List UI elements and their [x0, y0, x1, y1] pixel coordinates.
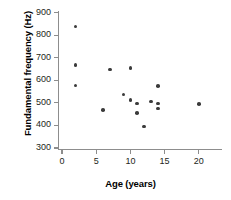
y-tick-label-400: 400	[22, 119, 51, 129]
data-point	[101, 108, 105, 112]
y-tick-label-700: 700	[22, 52, 51, 62]
y-tick-label-wrap-700: 700	[22, 52, 51, 63]
y-tick-700	[54, 57, 58, 58]
x-tick-0	[61, 150, 62, 154]
y-tick-label-wrap-400: 400	[22, 119, 51, 130]
data-point	[197, 102, 201, 106]
y-tick-300	[54, 147, 58, 148]
data-point	[74, 84, 78, 88]
data-point	[122, 93, 126, 97]
x-tick-label-10: 10	[118, 156, 142, 166]
data-point	[156, 107, 160, 111]
y-tick-label-wrap-800: 800	[22, 29, 51, 40]
data-point	[135, 102, 139, 106]
x-tick-10	[130, 150, 131, 154]
y-tick-label-wrap-300: 300	[22, 142, 51, 153]
y-tick-label-900: 900	[22, 7, 51, 17]
y-tick-label-300: 300	[22, 142, 51, 152]
x-tick-label-0: 0	[50, 156, 74, 166]
y-tick-900	[54, 12, 58, 13]
data-point	[129, 66, 133, 70]
y-tick-label-wrap-900: 900	[22, 7, 51, 18]
data-point	[156, 84, 160, 88]
data-point	[108, 68, 112, 72]
x-tick-label-15: 15	[153, 156, 177, 166]
x-tick-label-5: 5	[84, 156, 108, 166]
y-tick-500	[54, 102, 58, 103]
x-tick-15	[164, 150, 165, 154]
y-axis-line	[58, 11, 59, 150]
plot-area: 300400500600700800900 05101520	[0, 0, 231, 200]
x-tick-label-20: 20	[187, 156, 211, 166]
data-point	[74, 25, 78, 29]
x-tick-20	[198, 150, 199, 154]
data-point	[74, 63, 78, 67]
data-point	[129, 98, 133, 102]
y-tick-label-600: 600	[22, 74, 51, 84]
y-tick-label-800: 800	[22, 29, 51, 39]
data-point	[142, 125, 146, 129]
x-tick-5	[96, 150, 97, 154]
data-point	[149, 100, 153, 104]
y-tick-label-wrap-600: 600	[22, 74, 51, 85]
y-tick-800	[54, 35, 58, 36]
y-tick-400	[54, 125, 58, 126]
y-tick-600	[54, 80, 58, 81]
y-tick-label-wrap-500: 500	[22, 97, 51, 108]
y-tick-label-500: 500	[22, 97, 51, 107]
data-point	[135, 111, 139, 115]
data-point	[156, 102, 160, 106]
scatter-plot-figure: Fundamental frequency (Hz) Age (years) 3…	[0, 0, 231, 200]
